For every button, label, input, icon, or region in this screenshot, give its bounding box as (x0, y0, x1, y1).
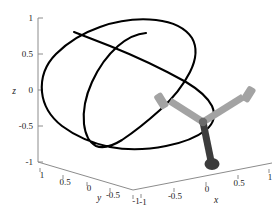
z-tick-label: -1 (26, 157, 34, 167)
y-axis-line (38, 162, 133, 190)
x-axis-label: x (213, 195, 219, 205)
z-axis-label: z (11, 86, 16, 96)
vector-left (153, 92, 203, 122)
z-tick-label: -0.5 (19, 121, 34, 131)
plot-figure: 1 0.5 0 -0.5 -1 z 1 0.5 0 -0.5 -1 y (0, 0, 280, 220)
vector-left-shaft (170, 101, 203, 122)
z-tick-label: 1 (29, 13, 34, 23)
x-tick-label: -0.5 (168, 191, 183, 201)
vector-down-head (205, 158, 220, 170)
x-tick-label: 0.5 (233, 178, 245, 188)
vector-left-head (153, 92, 169, 110)
x-tick-label: 1 (268, 172, 273, 182)
x-axis-line (133, 163, 272, 190)
z-axis-ticks: 1 0.5 0 -0.5 -1 (19, 13, 43, 167)
y-axis-ticks: 1 0.5 0 -0.5 -1 (40, 168, 140, 206)
plot-canvas: 1 0.5 0 -0.5 -1 z 1 0.5 0 -0.5 -1 y (0, 0, 280, 220)
z-tick-label: 0 (29, 85, 34, 95)
y-axis-label: y (96, 193, 102, 203)
vector-down (203, 122, 220, 170)
y-tick-label: 1 (40, 170, 45, 180)
vector-origin-node (199, 118, 207, 126)
y-tick-label: 0 (87, 183, 92, 193)
y-tick-label: -0.5 (106, 190, 121, 200)
vector-down-shaft (203, 122, 211, 161)
trajectory-curve (42, 19, 214, 149)
x-tick-label: 0 (205, 184, 210, 194)
z-tick-label: 0.5 (22, 49, 34, 59)
y-tick-label: 0.5 (59, 177, 71, 187)
x-axis-ticks: -1 -0.5 0 0.5 1 (139, 169, 272, 207)
x-tick-label: -1 (139, 197, 147, 207)
